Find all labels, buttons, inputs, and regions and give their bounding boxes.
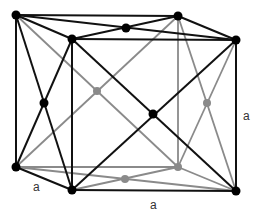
- edge-label-depth: a: [33, 181, 40, 193]
- edge-label-height: a: [243, 110, 250, 122]
- edge-label-width: a: [150, 199, 157, 211]
